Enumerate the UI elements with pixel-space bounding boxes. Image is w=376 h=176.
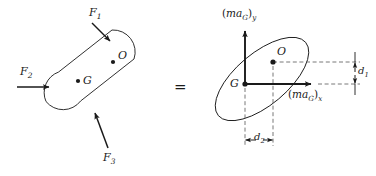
force-label-f3: F3 xyxy=(103,152,115,166)
force-label-f1: F1 xyxy=(89,7,101,21)
point-marker-g-right xyxy=(242,81,247,86)
point-label-g-left: G xyxy=(83,75,92,86)
figure-canvas xyxy=(0,0,376,176)
dimension-label-d2: d2 xyxy=(254,132,265,145)
point-label-o-left: O xyxy=(118,50,127,61)
point-label-o-right: O xyxy=(277,46,286,57)
force-arrow-f3 xyxy=(95,113,108,148)
body-outline-left xyxy=(44,30,135,110)
body-outline-right xyxy=(202,22,323,135)
point-label-g-right: G xyxy=(230,78,239,89)
point-marker-g-left xyxy=(76,79,80,83)
point-marker-o-left xyxy=(111,60,115,64)
point-marker-o-right xyxy=(270,59,275,64)
dimension-label-d1: d1 xyxy=(358,66,369,79)
vector-label-mag-y: (maG)y xyxy=(222,8,256,21)
equals-sign: = xyxy=(174,80,187,95)
vector-label-mag-x: (maG)x xyxy=(288,89,322,102)
kinetic-diagram-group xyxy=(202,22,360,146)
mechanics-figure: F1 F2 F3 G O = (maG)y (maG)x G O d1 d2 xyxy=(0,0,376,176)
free-body-diagram-group xyxy=(17,23,135,148)
force-label-f2: F2 xyxy=(20,66,32,80)
